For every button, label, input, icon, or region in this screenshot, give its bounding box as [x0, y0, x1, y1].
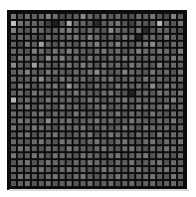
heatmap-cell [94, 77, 99, 82]
heatmap-cell [136, 97, 141, 102]
heatmap-cell [94, 174, 99, 179]
heatmap-cell [74, 77, 79, 82]
heatmap-cell [60, 21, 65, 26]
heatmap-cell [32, 14, 37, 19]
heatmap-cell [46, 167, 51, 172]
heatmap-cell [39, 132, 44, 137]
heatmap-cell [11, 84, 16, 89]
heatmap-cell [136, 174, 141, 179]
heatmap-cell [129, 167, 134, 172]
heatmap-cell [74, 153, 79, 158]
heatmap-cell [150, 118, 155, 123]
heatmap-cell [136, 167, 141, 172]
heatmap-cell [143, 181, 148, 186]
heatmap-cell [81, 153, 86, 158]
heatmap-cell [94, 181, 99, 186]
heatmap-cell [178, 35, 183, 40]
heatmap-cell [32, 104, 37, 109]
heatmap-cell [94, 167, 99, 172]
heatmap-cell [46, 63, 51, 68]
heatmap-cell [25, 167, 30, 172]
heatmap-cell [74, 167, 79, 172]
heatmap-cell [164, 97, 169, 102]
heatmap-cell [178, 139, 183, 144]
heatmap-cell [25, 97, 30, 102]
heatmap-cell [81, 14, 86, 19]
heatmap-cell [18, 35, 23, 40]
heatmap-cell [129, 63, 134, 68]
heatmap-cell [11, 153, 16, 158]
heatmap-cell [150, 56, 155, 61]
heatmap-cell [164, 111, 169, 116]
heatmap-cell [129, 104, 134, 109]
heatmap-cell [129, 21, 134, 26]
heatmap-cell [115, 167, 120, 172]
heatmap-cell [60, 56, 65, 61]
heatmap-cell [178, 132, 183, 137]
heatmap-cell [18, 77, 23, 82]
heatmap-cell [60, 146, 65, 151]
heatmap-cell [171, 118, 176, 123]
heatmap-cell [115, 153, 120, 158]
heatmap-cell [150, 42, 155, 47]
heatmap-cell [108, 77, 113, 82]
heatmap-cell [164, 91, 169, 96]
heatmap-cell [171, 160, 176, 165]
heatmap-cell [67, 167, 72, 172]
heatmap-cell [94, 153, 99, 158]
heatmap-cell [94, 91, 99, 96]
heatmap-cell [81, 70, 86, 75]
heatmap-cell [53, 28, 58, 33]
heatmap-cell [157, 63, 162, 68]
heatmap-cell [32, 132, 37, 137]
heatmap-cell [115, 111, 120, 116]
heatmap-cell [53, 49, 58, 54]
heatmap-cell [25, 111, 30, 116]
heatmap-cell [18, 174, 23, 179]
heatmap-cell [129, 28, 134, 33]
heatmap-cell [25, 21, 30, 26]
heatmap-cell [88, 118, 93, 123]
heatmap-cell [157, 167, 162, 172]
heatmap-cell [11, 42, 16, 47]
heatmap-cell [46, 77, 51, 82]
heatmap-cell [157, 132, 162, 137]
heatmap-cell [46, 97, 51, 102]
heatmap-cell [39, 174, 44, 179]
heatmap-cell [39, 181, 44, 186]
heatmap-cell [164, 49, 169, 54]
heatmap-cell [53, 174, 58, 179]
heatmap-cell [150, 28, 155, 33]
heatmap-cell [136, 63, 141, 68]
heatmap-cell [101, 28, 106, 33]
heatmap-cell [67, 153, 72, 158]
heatmap-cell [115, 56, 120, 61]
heatmap-cell [94, 70, 99, 75]
heatmap-cell [150, 63, 155, 68]
heatmap-cell [150, 167, 155, 172]
heatmap-cell [53, 111, 58, 116]
heatmap-cell [164, 118, 169, 123]
heatmap-cell [108, 160, 113, 165]
heatmap-cell [88, 21, 93, 26]
heatmap-cell [18, 125, 23, 130]
heatmap-cell [178, 174, 183, 179]
heatmap-cell [115, 35, 120, 40]
heatmap-cell [74, 111, 79, 116]
heatmap-cell [115, 160, 120, 165]
heatmap-cell [171, 14, 176, 19]
heatmap-cell [18, 42, 23, 47]
heatmap-cell [143, 91, 148, 96]
heatmap-cell [122, 56, 127, 61]
heatmap-cell [108, 63, 113, 68]
heatmap-cell [178, 14, 183, 19]
heatmap-cell [136, 146, 141, 151]
heatmap-cell [46, 91, 51, 96]
heatmap-cell [25, 35, 30, 40]
heatmap-cell [46, 174, 51, 179]
heatmap-cell [108, 14, 113, 19]
heatmap-cell [164, 70, 169, 75]
heatmap-cell [39, 77, 44, 82]
heatmap-cell [67, 97, 72, 102]
heatmap-cell [115, 70, 120, 75]
